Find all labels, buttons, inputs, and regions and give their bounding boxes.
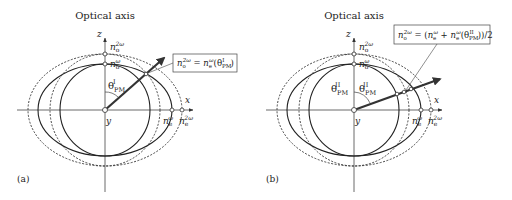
equation-leader-line [406, 44, 437, 90]
marker-pm-point [144, 72, 148, 76]
label-ne-w: neω [163, 114, 173, 127]
optical-axis-title: Optical axis [75, 10, 135, 21]
marker-no-w [103, 62, 107, 66]
label-ne-2w: ne2ω [428, 114, 442, 127]
panel-label-b: (b) [266, 174, 279, 184]
label-no-2w: no2ω [359, 40, 373, 53]
label-no-w: noω [110, 57, 120, 70]
x-axis-label: x [185, 95, 190, 105]
marker-pm-point [402, 90, 406, 94]
marker-ne-w [170, 108, 174, 112]
label-theta-pm-ii-right: θPMII [359, 81, 376, 97]
equation-b: no2ω = (neω + neω(θPMII))/2 [398, 29, 493, 41]
label-ne-w: neω [412, 114, 422, 127]
y-axis-label: y [105, 116, 112, 126]
z-axis-label: z [96, 29, 102, 39]
marker-ne-2w [180, 108, 184, 112]
panel-a: Optical axis z x y no2ω noω neω ne2ω θPM… [17, 10, 237, 192]
label-theta-pm-i: θPMI [108, 78, 125, 94]
y-axis-label: y [354, 116, 361, 126]
optical-axis-title: Optical axis [324, 10, 384, 21]
phase-matching-diagram: Optical axis z x y no2ω noω neω ne2ω θPM… [0, 0, 512, 200]
z-axis-label: z [345, 29, 351, 39]
marker-ellipse-intersection [409, 87, 413, 91]
x-axis-label: x [434, 95, 439, 105]
label-theta-pm-ii-left: θPMII [331, 81, 348, 97]
marker-ne-w [419, 108, 423, 112]
marker-ne-2w [429, 108, 433, 112]
label-no-w: noω [359, 57, 369, 70]
marker-circle-intersection [395, 92, 399, 96]
label-no-2w: no2ω [110, 40, 124, 53]
origin-marker [103, 108, 108, 113]
label-ne-2w: ne2ω [179, 114, 193, 127]
panel-b: Optical axis z x y no2ω noω neω ne2ω θPM… [266, 10, 493, 192]
panel-label-a: (a) [17, 174, 29, 184]
marker-no-2w [352, 52, 356, 56]
origin-marker [352, 108, 357, 113]
marker-no-2w [103, 52, 107, 56]
marker-no-w [352, 62, 356, 66]
